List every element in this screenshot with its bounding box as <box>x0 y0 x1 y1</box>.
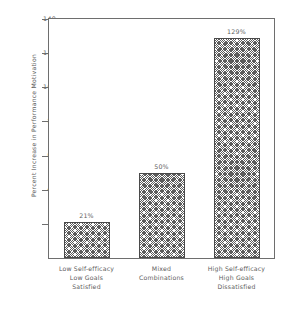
bar[interactable] <box>139 173 185 258</box>
bars-layer: 21%50%129% <box>49 19 274 258</box>
bar-slot: 21% <box>49 19 124 258</box>
bar-slot: 50% <box>124 19 199 258</box>
x-axis-label-group: Low Self-efficacyLow GoalsSatisfiedMixed… <box>49 264 274 308</box>
bar-chart: Percent Increase in Performance Motivati… <box>0 0 282 312</box>
bar-slot: 129% <box>199 19 274 258</box>
x-axis-category-line: Dissatisfied <box>187 282 282 291</box>
bar-value-label: 129% <box>200 28 274 35</box>
bar-value-label: 50% <box>125 163 199 170</box>
x-axis-category-line: Satisfied <box>37 282 136 291</box>
x-axis-category-label: High Self-efficacyHigh GoalsDissatisfied <box>187 264 282 292</box>
x-axis-category-line: High Goals <box>187 273 282 282</box>
bar[interactable] <box>214 38 260 258</box>
bar-value-label: 21% <box>50 212 124 219</box>
x-axis-category-line: High Self-efficacy <box>187 264 282 273</box>
bar[interactable] <box>64 222 110 258</box>
